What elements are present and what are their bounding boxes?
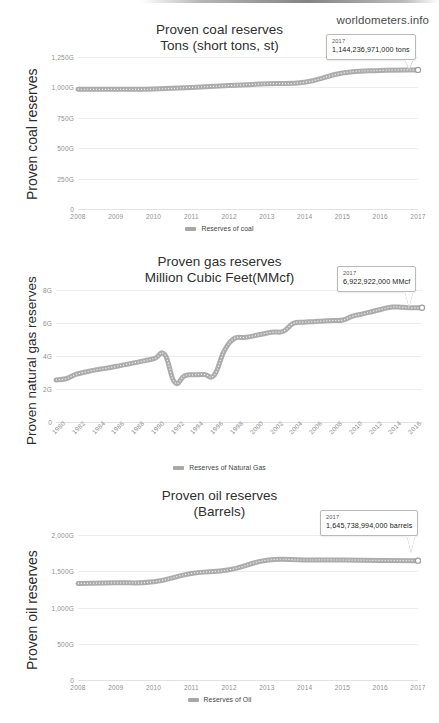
tooltip-gas: 2017 6,922,922,000 MMcf (337, 266, 416, 292)
chart-title-coal-line1: Proven coal reserves (156, 22, 283, 37)
y-axis-tick-label: 4G (43, 353, 52, 360)
y-axis-tick-label: 1,000G (51, 84, 74, 91)
x-axis-tick-label: 2016 (373, 684, 388, 691)
tooltip-oil-value: 1,645,738,994,000 barrels (326, 521, 412, 531)
plot-area-gas: 02G4G6G8G1980198219841986198819901992199… (56, 290, 422, 422)
x-axis-tick-label: 2012 (221, 684, 236, 691)
page-bottom-caption (4, 713, 264, 723)
y-axis-tick-label: 6G (43, 320, 52, 327)
y-axis-tick-label: 2G (43, 386, 52, 393)
legend-swatch-oil (188, 698, 199, 702)
tooltip-coal: 2017 1,144,236,971,000 tons (326, 34, 416, 60)
y-axis-tick-label: 750G (57, 114, 74, 121)
tooltip-oil-year: 2017 (326, 514, 412, 521)
y-axis-tick-label: 1,000G (51, 604, 74, 611)
y-axis-title-gas: Proven natural gas reserves (24, 276, 39, 445)
y-axis-tick-label: 0 (48, 419, 52, 426)
y-axis-tick-label: 1,500G (51, 568, 74, 575)
x-axis-tick-label: 2010 (146, 684, 161, 691)
tooltip-gas-value: 6,922,922,000 MMcf (343, 277, 410, 287)
legend-label-oil: Reserves of Oil (204, 696, 252, 703)
legend-swatch-coal (185, 227, 196, 231)
x-axis-tick-label: 2011 (184, 213, 199, 220)
legend-coal: Reserves of coal (0, 225, 439, 232)
series-endpoint-marker (419, 305, 424, 310)
legend-gas: Reserves of Natural Gas (0, 464, 439, 471)
chart-panel-coal: worldometers.info Proven coal reserves T… (0, 4, 439, 240)
tooltip-oil-tail (407, 536, 415, 552)
x-axis-tick-label: 2013 (259, 684, 274, 691)
x-axis-tick-label: 2013 (259, 213, 274, 220)
x-axis-tick-label: 2011 (184, 684, 199, 691)
chart-panel-gas: Proven gas reserves Million Cubic Feet(M… (0, 240, 439, 480)
legend-oil: Reserves of Oil (0, 696, 439, 703)
chart-title-gas-line1: Proven gas reserves (158, 254, 282, 269)
legend-label-coal: Reserves of coal (201, 225, 253, 232)
y-axis-tick-label: 500G (57, 145, 74, 152)
tooltip-coal-value: 1,144,236,971,000 tons (332, 45, 410, 55)
tooltip-gas-year: 2017 (343, 270, 410, 277)
scanned-page: worldometers.info Proven coal reserves T… (0, 0, 439, 723)
x-axis-tick-label: 2016 (373, 213, 388, 220)
x-axis-tick-label: 2010 (146, 213, 161, 220)
y-axis-tick-label: 2,000G (51, 532, 74, 539)
tooltip-coal-tail (405, 60, 413, 69)
legend-label-gas: Reserves of Natural Gas (189, 464, 266, 471)
y-axis-tick-label: 1,250G (51, 54, 74, 61)
x-axis-tick-label: 2015 (335, 684, 350, 691)
y-axis-title-oil: Proven oil reserves (24, 550, 40, 670)
y-axis-tick-label: 8G (43, 287, 52, 294)
y-axis-tick-label: 0 (70, 677, 74, 684)
x-axis-tick-label: 2017 (410, 213, 425, 220)
legend-swatch-gas (173, 466, 184, 470)
tooltip-gas-tail (405, 292, 413, 307)
x-axis-tick-label: 2017 (410, 684, 425, 691)
y-axis-tick-label: 500G (57, 640, 74, 647)
y-axis-title-coal: Proven coal reserves (24, 68, 40, 200)
chart-title-oil-line1: Proven oil reserves (162, 488, 278, 503)
x-axis-tick-label: 2012 (221, 213, 236, 220)
y-axis-tick-label: 250G (57, 175, 74, 182)
y-axis-tick-label: 0 (70, 206, 74, 213)
plot-area-oil: 0500G1,000G1,500G2,000G20082009201020112… (78, 535, 418, 680)
series-line-gas (56, 290, 422, 422)
tooltip-coal-year: 2017 (332, 38, 410, 45)
x-axis-tick-label: 2009 (108, 213, 123, 220)
tooltip-oil: 2017 1,645,738,994,000 barrels (320, 510, 418, 536)
gridline (78, 680, 418, 681)
series-line-oil (78, 535, 418, 680)
scan-edge-artifact (0, 0, 439, 3)
series-endpoint-marker (415, 558, 420, 563)
x-axis-tick-label: 2008 (70, 684, 85, 691)
x-axis-tick-label: 2014 (297, 213, 312, 220)
x-axis-tick-label: 2008 (70, 213, 85, 220)
plot-area-coal: 0250G500G750G1,000G1,250G200820092010201… (78, 57, 418, 209)
x-axis-tick-label: 2015 (335, 213, 350, 220)
chart-panel-oil: Proven oil reserves (Barrels) Proven oil… (0, 480, 439, 723)
gridline (78, 209, 418, 210)
series-line-coal (78, 57, 418, 209)
series-endpoint-marker (415, 67, 420, 72)
x-axis-tick-label: 2014 (297, 684, 312, 691)
x-axis-tick-label: 2009 (108, 684, 123, 691)
